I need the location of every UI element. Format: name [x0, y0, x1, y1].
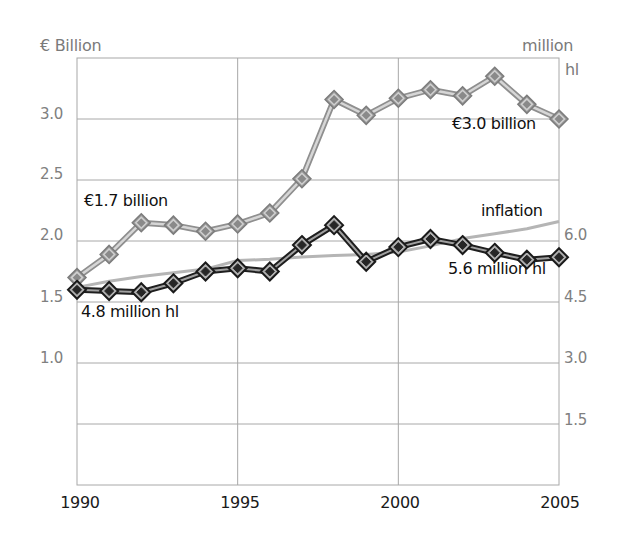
- annotation-end-volume: 5.6 million hl: [448, 259, 546, 278]
- x-tick-2000: 2000: [380, 493, 420, 512]
- y-tick-left-2.0: 2.0: [40, 226, 63, 244]
- annotation-end-value: €3.0 billion: [452, 114, 536, 133]
- y-tick-left-2.5: 2.5: [40, 165, 63, 183]
- annotation-start-volume: 4.8 million hl: [81, 302, 179, 321]
- value-polyline: [77, 76, 559, 277]
- annotation-inflation: inflation: [481, 201, 543, 220]
- y-tick-right-3.0: 3.0: [564, 349, 587, 367]
- y-tick-right-1.5: 1.5: [564, 411, 587, 429]
- value-polyline-outline: [77, 76, 559, 277]
- left-axis-title: € Billion: [40, 36, 101, 55]
- y-tick-left-1.0: 1.0: [40, 349, 63, 367]
- x-tick-2005: 2005: [540, 493, 580, 512]
- x-tick-1990: 1990: [60, 493, 100, 512]
- y-tick-left-1.5: 1.5: [40, 288, 63, 306]
- y-tick-right-6.0: 6.0: [564, 226, 587, 244]
- right-axis-title-line1: million: [522, 36, 573, 55]
- y-tick-left-3.0: 3.0: [40, 105, 63, 123]
- y-tick-right-4.5: 4.5: [564, 288, 587, 306]
- right-axis-title-line2: hl: [565, 60, 579, 79]
- x-tick-1995: 1995: [220, 493, 260, 512]
- annotation-start-value: €1.7 billion: [84, 191, 168, 210]
